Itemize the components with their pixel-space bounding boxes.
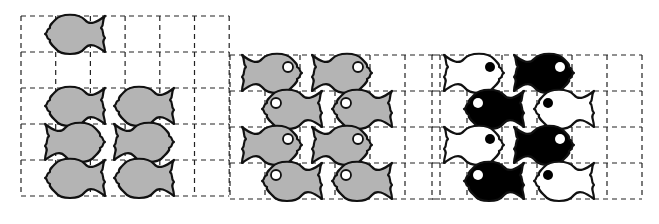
fish [464, 90, 524, 129]
fish [262, 90, 322, 129]
fish [242, 126, 302, 165]
fish [242, 54, 302, 93]
fish [534, 162, 594, 201]
fish [312, 54, 372, 93]
fish [514, 54, 574, 93]
fish [45, 87, 105, 126]
fish [444, 54, 504, 93]
fish [332, 90, 392, 129]
fish [114, 159, 174, 198]
fish [514, 126, 574, 165]
fish [262, 162, 322, 201]
fish [534, 90, 594, 129]
fish [464, 162, 524, 201]
fish [114, 123, 174, 162]
fish [312, 126, 372, 165]
fish [444, 126, 504, 165]
fish-tessellation-diagram [0, 0, 659, 224]
fish [45, 159, 105, 198]
fish [45, 15, 105, 54]
fish [114, 87, 174, 126]
fish-tiles [45, 15, 594, 201]
fish [332, 162, 392, 201]
fish [45, 123, 105, 162]
